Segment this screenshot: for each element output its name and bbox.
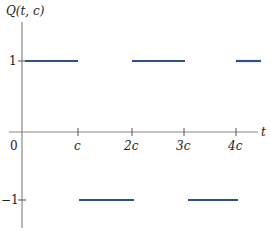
y-axis-label: Q(t, c) [6,4,45,18]
x-axis-label: t [261,125,266,139]
x-label-3c: 3c [176,139,191,153]
x-label-2c: 2c [123,139,139,153]
square-wave-chart: Q(t, c) t 0 c 2c 3c 4c 1 −1 [0,0,271,238]
x-label-4c: 4c [227,139,243,153]
y-label-1: 1 [9,54,17,68]
y-label-neg1: −1 [1,193,19,207]
x-label-c: c [74,139,81,153]
square-wave-series [25,61,261,200]
origin-label: 0 [10,139,18,153]
